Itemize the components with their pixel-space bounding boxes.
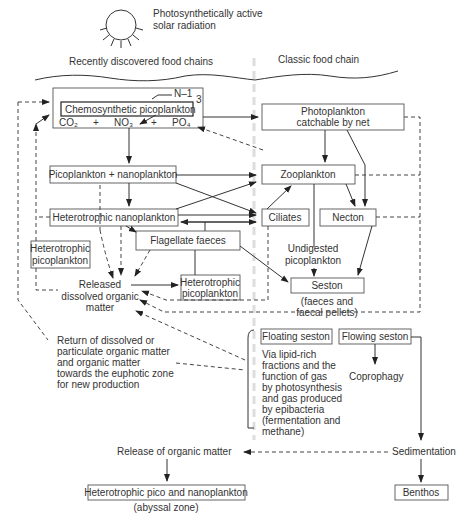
hetero-pico-left-dash <box>36 268 58 290</box>
hetero-pico-mid-label-2: picoplankton <box>182 288 238 299</box>
left-outer-dash <box>18 102 48 340</box>
n-subscript: 3 <box>196 94 202 105</box>
pico-to-released-dash <box>100 230 113 278</box>
undigested-label-1: Undigested <box>288 243 339 254</box>
return-label-3: and organic matter <box>57 357 141 368</box>
faeces-to-seston-arrow <box>240 246 288 282</box>
svg-text:by photosynthesis: by photosynthesis <box>262 382 342 393</box>
benthos-label: Benthos <box>403 487 440 498</box>
flowing-seston-label: Flowing seston <box>342 331 409 342</box>
ciliates-label: Ciliates <box>269 212 302 223</box>
sun-label-2: solar radiation <box>153 20 216 31</box>
no3-label: NO₃ <box>114 117 133 128</box>
hetero-nano-label: Heterotrophic nanoplankton <box>53 212 176 223</box>
seston-note-1: (faeces and <box>301 296 353 307</box>
svg-text:function of gas: function of gas <box>262 371 327 382</box>
co2-label: CO₂ <box>59 117 78 128</box>
return-label-4: towards the euphotic zone <box>57 368 174 379</box>
sedimentation-label: Sedimentation <box>392 446 456 457</box>
plus1: + <box>93 117 99 128</box>
hetero-pico-mid-label-1: Heterotrophic <box>180 277 240 288</box>
svg-text:Via lipid-rich: Via lipid-rich <box>262 349 316 360</box>
floating-description: Via lipid-rich fractions and the functio… <box>262 349 342 437</box>
zooplankton-label: Zooplankton <box>280 169 335 180</box>
necton-to-seston-arrow <box>358 226 372 275</box>
svg-text:and gas produced: and gas produced <box>262 393 342 404</box>
hetero-pico-left-label-1: Heterotrophic <box>30 243 90 254</box>
necton-label: Necton <box>332 212 364 223</box>
seston-label: Seston <box>311 280 342 291</box>
return-label-5: for new production <box>57 379 139 390</box>
released-label-3: matter <box>86 302 115 313</box>
return-label-2: particulate organic matter <box>57 346 171 357</box>
photo-to-necton-line <box>347 130 365 165</box>
release-organic-label: Release of organic matter <box>117 446 232 457</box>
pico-nano-label: Picoplankton + nanoplankton <box>49 169 178 180</box>
photoplankton-label-2: catchable by net <box>297 117 370 128</box>
hetero-to-zoo-arrow <box>176 182 256 209</box>
svg-text:(fermentation and: (fermentation and <box>262 415 340 426</box>
released-label-2: dissolved organic <box>61 291 138 302</box>
sun-icon <box>100 10 143 48</box>
return-text-dash <box>176 363 245 370</box>
pico-to-ciliates-arrow <box>176 183 256 213</box>
food-chain-diagram: Photosynthetically active solar radiatio… <box>0 0 461 516</box>
floating-seston-label: Floating seston <box>262 331 330 342</box>
photoplankton-label-1: Photoplankton <box>301 106 365 117</box>
ciliates-to-zoo-arrow <box>267 186 291 209</box>
svg-text:methane): methane) <box>262 426 304 437</box>
water-surface-wave <box>35 71 398 81</box>
faeces-to-released-dash <box>135 250 150 276</box>
sun-label-1: Photosynthetically active <box>153 8 263 19</box>
abyssal-label: Heterotrophic pico and nanoplankton <box>84 487 247 498</box>
undigested-label-2: picoplankton <box>285 255 341 266</box>
to-co2-arrow <box>36 115 49 124</box>
svg-text:by epibacteria: by epibacteria <box>262 404 325 415</box>
coprophagy-label: Coprophagy <box>349 371 403 382</box>
hetero-to-faeces-arrow <box>126 226 136 232</box>
released-label-1: Released <box>79 279 121 290</box>
left-heading: Recently discovered food chains <box>69 56 213 67</box>
right-heading: Classic food chain <box>278 54 359 65</box>
n-label: N–1 <box>174 88 193 99</box>
flagellate-faeces-label: Flagellate faeces <box>150 235 226 246</box>
abyssal-note: (abyssal zone) <box>133 502 198 513</box>
zoo-to-necton-arrow <box>346 184 355 206</box>
po4-label: PO₄ <box>172 117 191 128</box>
plus2: + <box>151 117 157 128</box>
flowing-to-sedimentation-arrow <box>411 337 421 440</box>
return-label-1: Return of dissolved or <box>57 335 155 346</box>
hetero-pico-left-label-2: picoplankton <box>32 255 88 266</box>
chemosynthetic-label: Chemosynthetic picoplankton <box>65 104 196 115</box>
svg-text:fractions and the: fractions and the <box>262 360 336 371</box>
